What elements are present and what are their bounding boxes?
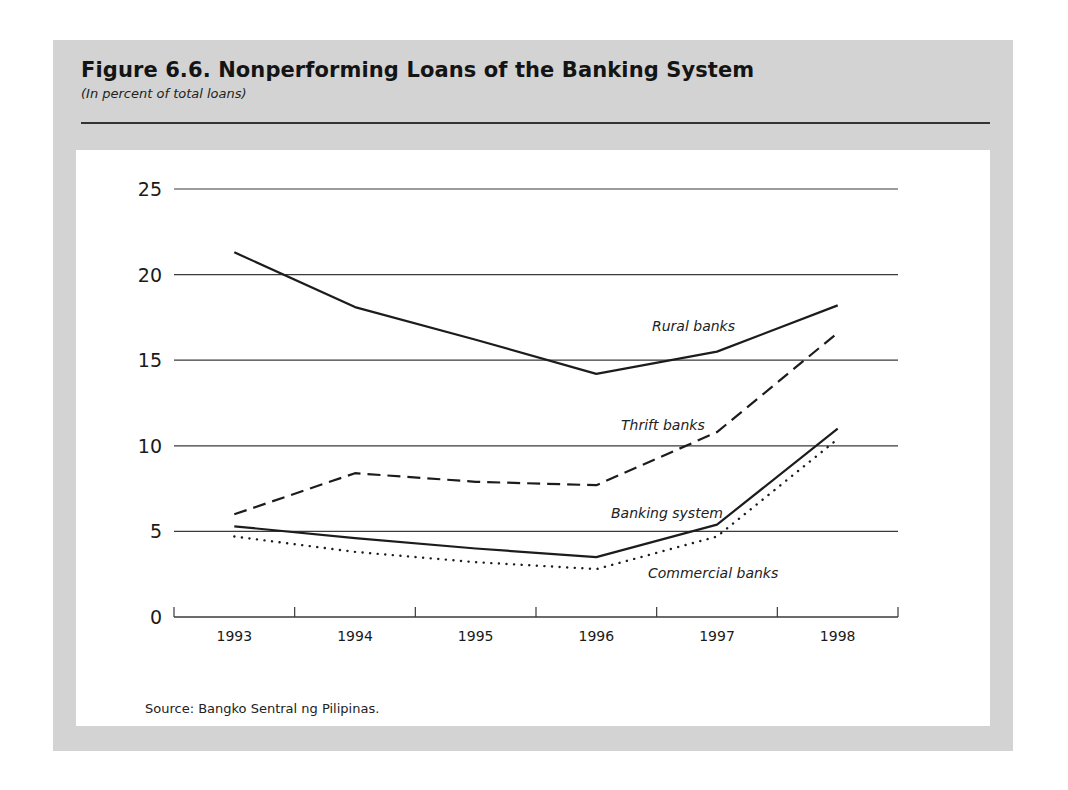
x-tick-label: 1993 (217, 628, 253, 644)
line-chart: 0510152025199319941995199619971998Rural … (76, 150, 990, 726)
series-commercial-banks (234, 439, 837, 569)
x-tick-label: 1998 (820, 628, 856, 644)
series-label-banking-system: Banking system (611, 505, 723, 521)
x-tick-label: 1996 (579, 628, 615, 644)
x-tick-label: 1995 (458, 628, 494, 644)
chart-panel: 0510152025199319941995199619971998Rural … (76, 150, 990, 726)
series-label-thrift-banks: Thrift banks (621, 417, 705, 433)
series-rural-banks (234, 252, 837, 374)
y-tick-label: 0 (150, 606, 162, 628)
y-tick-label: 5 (150, 520, 162, 542)
series-label-rural-banks: Rural banks (652, 318, 735, 334)
y-tick-label: 10 (138, 435, 162, 457)
figure-subtitle: (In percent of total loans) (81, 86, 247, 101)
x-tick-label: 1997 (699, 628, 735, 644)
series-banking-system (234, 429, 837, 557)
y-tick-label: 25 (138, 178, 162, 200)
y-tick-label: 15 (138, 349, 162, 371)
figure-title: Figure 6.6. Nonperforming Loans of the B… (81, 58, 754, 82)
figure-frame: Figure 6.6. Nonperforming Loans of the B… (53, 40, 1013, 751)
y-tick-label: 20 (138, 264, 162, 286)
x-tick-label: 1994 (337, 628, 373, 644)
title-rule (81, 122, 990, 124)
source-note: Source: Bangko Sentral ng Pilipinas. (145, 701, 379, 716)
series-label-commercial-banks: Commercial banks (648, 565, 778, 581)
